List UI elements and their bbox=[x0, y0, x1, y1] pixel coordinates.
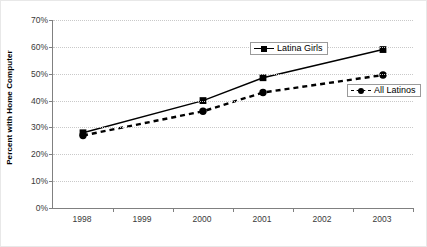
gridline bbox=[53, 74, 413, 75]
y-tick-label: 30% bbox=[18, 122, 48, 132]
y-axis-tick-mark bbox=[49, 127, 53, 128]
gridline bbox=[53, 127, 413, 128]
series-line-all-latinos bbox=[83, 75, 383, 135]
gridline bbox=[53, 47, 413, 48]
data-point-square bbox=[260, 74, 267, 81]
y-tick-label: 70% bbox=[18, 15, 48, 25]
gridline bbox=[53, 101, 413, 102]
y-axis-tick-mark bbox=[49, 20, 53, 21]
x-tick-label: 2001 bbox=[253, 214, 272, 224]
legend-label-all-latinos: All Latinos bbox=[374, 86, 416, 95]
y-tick-label: 20% bbox=[18, 149, 48, 159]
plot-area bbox=[52, 20, 413, 209]
legend-item-latina-girls: Latina Girls bbox=[250, 42, 328, 55]
y-axis-tick-mark bbox=[49, 47, 53, 48]
x-tick-label: 2000 bbox=[193, 214, 212, 224]
y-tick-label: 10% bbox=[18, 176, 48, 186]
data-point-circle bbox=[379, 71, 386, 78]
y-tick-label: 40% bbox=[18, 96, 48, 106]
series-line-latina-girls bbox=[83, 50, 383, 133]
y-axis-tick-labels: 0%10%20%30%40%50%60%70% bbox=[18, 0, 48, 246]
y-tick-label: 60% bbox=[18, 42, 48, 52]
y-axis-tick-mark bbox=[49, 208, 53, 209]
gridline bbox=[53, 154, 413, 155]
square-marker-icon bbox=[261, 46, 267, 52]
y-tick-label: 50% bbox=[18, 69, 48, 79]
y-axis-tick-mark bbox=[49, 101, 53, 102]
x-axis-tick-labels: 199819992000200120022003 bbox=[52, 212, 412, 228]
legend-item-all-latinos: All Latinos bbox=[347, 84, 421, 97]
gridline bbox=[53, 20, 413, 21]
series-layer bbox=[53, 20, 413, 208]
circle-marker-icon bbox=[358, 88, 364, 94]
data-point-circle bbox=[199, 108, 206, 115]
legend-label-latina-girls: Latina Girls bbox=[277, 44, 323, 53]
x-tick-label: 1998 bbox=[73, 214, 92, 224]
x-tick-label: 2002 bbox=[313, 214, 332, 224]
x-axis-tick-mark bbox=[413, 208, 414, 212]
y-tick-label: 0% bbox=[18, 203, 48, 213]
x-tick-label: 2003 bbox=[373, 214, 392, 224]
legend-swatch-latina-girls bbox=[254, 44, 274, 53]
y-axis-tick-mark bbox=[49, 154, 53, 155]
x-tick-label: 1999 bbox=[133, 214, 152, 224]
data-point-circle bbox=[259, 89, 266, 96]
gridline bbox=[53, 181, 413, 182]
y-axis-tick-mark bbox=[49, 181, 53, 182]
y-axis-title-label: Percent with Home Computer bbox=[5, 50, 14, 165]
y-axis-title: Percent with Home Computer bbox=[0, 0, 18, 215]
legend-swatch-all-latinos bbox=[351, 86, 371, 95]
data-point-circle bbox=[79, 132, 86, 139]
y-axis-tick-mark bbox=[49, 74, 53, 75]
